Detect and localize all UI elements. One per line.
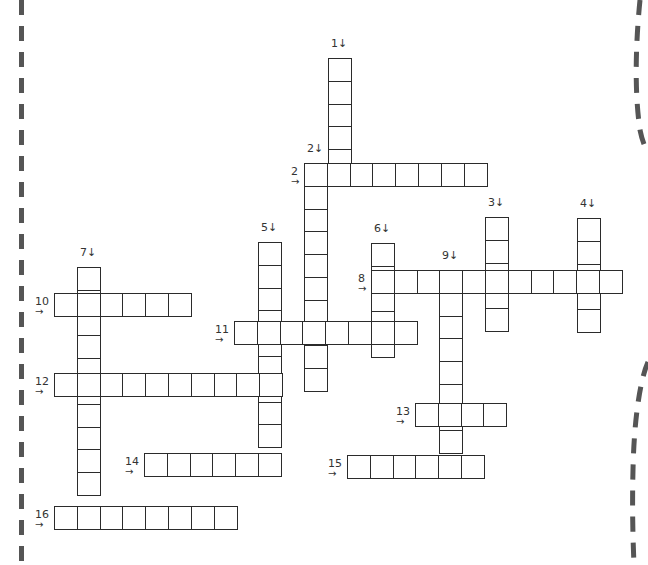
crossword-cell[interactable] [462, 270, 486, 294]
crossword-cell[interactable] [77, 373, 101, 397]
crossword-cell[interactable] [258, 424, 282, 448]
crossword-cell[interactable] [77, 293, 101, 317]
crossword-cell[interactable] [415, 455, 439, 479]
crossword-cell[interactable] [234, 321, 258, 345]
crossword-cell[interactable] [371, 321, 395, 345]
crossword-cell[interactable] [77, 427, 101, 451]
crossword-cell[interactable] [54, 506, 78, 530]
crossword-cell[interactable] [485, 308, 509, 332]
crossword-cell[interactable] [100, 506, 124, 530]
crossword-cell[interactable] [438, 455, 462, 479]
crossword-cell[interactable] [508, 270, 532, 294]
crossword-cell[interactable] [167, 453, 191, 477]
crossword-cell[interactable] [258, 402, 282, 426]
crossword-cell[interactable] [258, 265, 282, 289]
crossword-cell[interactable] [577, 218, 601, 242]
crossword-cell[interactable] [553, 270, 577, 294]
crossword-cell[interactable] [190, 453, 214, 477]
crossword-cell[interactable] [122, 373, 146, 397]
crossword-cell[interactable] [191, 506, 215, 530]
crossword-cell[interactable] [350, 163, 374, 187]
crossword-cell[interactable] [122, 506, 146, 530]
crossword-cell[interactable] [100, 373, 124, 397]
crossword-cell[interactable] [485, 217, 509, 241]
crossword-cell[interactable] [235, 453, 259, 477]
crossword-cell[interactable] [236, 373, 260, 397]
crossword-cell[interactable] [461, 455, 485, 479]
crossword-cell[interactable] [302, 321, 326, 345]
crossword-cell[interactable] [439, 338, 463, 362]
crossword-cell[interactable] [168, 506, 192, 530]
crossword-cell[interactable] [328, 126, 352, 150]
crossword-cell[interactable] [577, 309, 601, 333]
crossword-cell[interactable] [325, 321, 349, 345]
crossword-cell[interactable] [100, 293, 124, 317]
crossword-cell[interactable] [328, 58, 352, 82]
crossword-cell[interactable] [417, 270, 441, 294]
crossword-cell[interactable] [327, 163, 351, 187]
crossword-cell[interactable] [439, 293, 463, 317]
crossword-cell[interactable] [258, 453, 282, 477]
crossword-cell[interactable] [77, 472, 101, 496]
crossword-cell[interactable] [371, 270, 395, 294]
crossword-cell[interactable] [483, 403, 507, 427]
crossword-cell[interactable] [576, 270, 600, 294]
crossword-cell[interactable] [212, 453, 236, 477]
crossword-cell[interactable] [439, 361, 463, 385]
crossword-cell[interactable] [258, 242, 282, 266]
crossword-cell[interactable] [304, 209, 328, 233]
crossword-cell[interactable] [304, 345, 328, 369]
crossword-cell[interactable] [415, 403, 439, 427]
crossword-cell[interactable] [441, 163, 465, 187]
crossword-cell[interactable] [599, 270, 623, 294]
crossword-cell[interactable] [145, 373, 169, 397]
crossword-cell[interactable] [168, 293, 192, 317]
crossword-cell[interactable] [304, 254, 328, 278]
crossword-cell[interactable] [531, 270, 555, 294]
crossword-cell[interactable] [577, 241, 601, 265]
crossword-cell[interactable] [304, 186, 328, 210]
crossword-cell[interactable] [370, 455, 394, 479]
crossword-cell[interactable] [144, 453, 168, 477]
crossword-cell[interactable] [77, 335, 101, 359]
crossword-cell[interactable] [372, 163, 396, 187]
crossword-cell[interactable] [438, 403, 462, 427]
crossword-cell[interactable] [394, 321, 418, 345]
crossword-cell[interactable] [464, 163, 488, 187]
crossword-cell[interactable] [145, 506, 169, 530]
crossword-cell[interactable] [485, 270, 509, 294]
crossword-cell[interactable] [214, 373, 238, 397]
crossword-cell[interactable] [485, 240, 509, 264]
crossword-cell[interactable] [54, 373, 78, 397]
crossword-cell[interactable] [461, 403, 485, 427]
crossword-cell[interactable] [394, 270, 418, 294]
crossword-cell[interactable] [77, 404, 101, 428]
crossword-cell[interactable] [347, 455, 371, 479]
crossword-cell[interactable] [191, 373, 215, 397]
crossword-cell[interactable] [393, 455, 417, 479]
crossword-cell[interactable] [439, 430, 463, 454]
crossword-cell[interactable] [77, 267, 101, 291]
crossword-cell[interactable] [328, 104, 352, 128]
crossword-cell[interactable] [168, 373, 192, 397]
crossword-cell[interactable] [328, 81, 352, 105]
crossword-cell[interactable] [54, 293, 78, 317]
crossword-cell[interactable] [259, 373, 283, 397]
crossword-cell[interactable] [304, 231, 328, 255]
crossword-cell[interactable] [371, 243, 395, 267]
crossword-cell[interactable] [418, 163, 442, 187]
crossword-cell[interactable] [77, 506, 101, 530]
crossword-cell[interactable] [304, 368, 328, 392]
crossword-cell[interactable] [395, 163, 419, 187]
crossword-cell[interactable] [214, 506, 238, 530]
crossword-cell[interactable] [122, 293, 146, 317]
crossword-cell[interactable] [257, 321, 281, 345]
crossword-cell[interactable] [304, 277, 328, 301]
crossword-cell[interactable] [280, 321, 304, 345]
crossword-cell[interactable] [348, 321, 372, 345]
crossword-cell[interactable] [258, 288, 282, 312]
crossword-cell[interactable] [304, 163, 328, 187]
crossword-cell[interactable] [77, 449, 101, 473]
crossword-cell[interactable] [439, 270, 463, 294]
crossword-cell[interactable] [439, 316, 463, 340]
